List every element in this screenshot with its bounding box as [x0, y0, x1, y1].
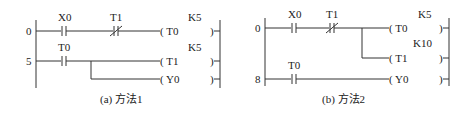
coil-label: ( Y0 — [160, 73, 180, 86]
diagram-caption: (a) 方法1 — [100, 92, 142, 106]
diagram-caption: (b) 方法2 — [322, 92, 365, 106]
no-contact-x0 — [62, 26, 66, 36]
coil-constant: K5 — [188, 11, 202, 23]
step-number: 0 — [26, 25, 32, 37]
coil-label: ( T0 — [389, 22, 408, 35]
contact-label: X0 — [58, 11, 72, 23]
coil-close: ) — [210, 25, 214, 38]
step-number: 5 — [26, 55, 32, 67]
no-contact-t0 — [62, 56, 66, 66]
contact-label: T0 — [288, 59, 301, 71]
contact-label: X0 — [288, 8, 302, 20]
coil-label: ( T1 — [160, 55, 178, 68]
coil-close: ) — [210, 73, 214, 86]
coil-label: ( Y0 — [389, 73, 409, 86]
coil-close: ) — [210, 55, 214, 68]
ladder-diagram-a: 0 X0 T1 ( T0 K5 ) 5 T0 ( T1 K5 ) — [26, 11, 220, 106]
coil-constant: K5 — [188, 41, 202, 53]
step-number: 8 — [255, 73, 261, 85]
no-contact-x0 — [292, 23, 296, 33]
contact-label: T0 — [58, 41, 71, 53]
coil-label: ( T1 — [389, 52, 407, 65]
no-contact-t0 — [292, 74, 296, 84]
ladder-diagram-b: 0 X0 T1 ( T0 K5 ) ( T1 K10 ) 8 — [255, 8, 449, 106]
coil-close: ) — [439, 73, 443, 86]
coil-constant: K5 — [418, 8, 432, 20]
step-number: 0 — [255, 22, 261, 34]
contact-label: T1 — [110, 11, 122, 23]
ladder-diagrams: 0 X0 T1 ( T0 K5 ) 5 T0 ( T1 K5 ) — [0, 0, 471, 114]
coil-constant: K10 — [413, 37, 432, 49]
coil-close: ) — [439, 52, 443, 65]
contact-label: T1 — [326, 8, 338, 20]
coil-close: ) — [439, 22, 443, 35]
coil-label: ( T0 — [160, 25, 179, 38]
